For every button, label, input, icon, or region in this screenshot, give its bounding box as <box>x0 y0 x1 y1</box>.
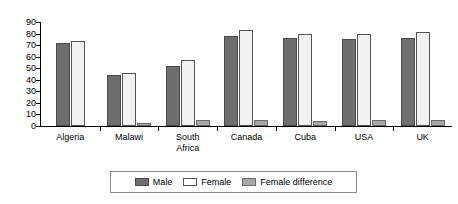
y-tick-mark <box>36 126 40 127</box>
bar-female <box>357 34 371 126</box>
y-tick-label: 60 <box>26 52 36 61</box>
female-swatch <box>183 178 197 186</box>
bar-group <box>335 22 394 126</box>
bar-male <box>342 39 356 126</box>
bar-male <box>107 75 121 126</box>
bar-group <box>100 22 159 126</box>
bar-female-difference <box>431 120 445 126</box>
bar-female-difference <box>137 123 151 126</box>
bar-female <box>416 32 430 126</box>
bar-group <box>41 22 100 126</box>
chart-legend: MaleFemaleFemale difference <box>110 171 357 193</box>
y-tick-mark <box>36 68 40 69</box>
legend-item[interactable]: Female difference <box>242 177 332 187</box>
y-tick-mark <box>36 91 40 92</box>
y-tick-mark <box>36 34 40 35</box>
x-category-label: Cuba <box>276 132 335 143</box>
x-tick-mark <box>100 127 101 131</box>
y-tick-mark <box>36 22 40 23</box>
x-tick-mark <box>217 127 218 131</box>
y-tick-label: 40 <box>26 75 36 84</box>
x-axis-line <box>40 126 452 127</box>
x-category-label: South Africa <box>158 132 217 154</box>
bar-chart: 0102030405060708090 AlgeriaMalawiSouth A… <box>0 0 458 204</box>
bar-female <box>71 41 85 127</box>
y-axis-tick-labels: 0102030405060708090 <box>14 22 36 126</box>
y-tick-label: 90 <box>26 18 36 27</box>
y-tick-mark <box>36 114 40 115</box>
x-tick-mark <box>393 127 394 131</box>
bar-group <box>276 22 335 126</box>
male-swatch <box>135 178 149 186</box>
x-axis-category-labels: AlgeriaMalawiSouth AfricaCanadaCubaUSAUK <box>41 132 452 162</box>
legend-label: Female difference <box>260 177 332 187</box>
x-tick-mark <box>335 127 336 131</box>
bar-female-difference <box>196 120 210 126</box>
bar-female <box>239 30 253 126</box>
bar-male <box>401 38 415 126</box>
y-tick-label: 30 <box>26 87 36 96</box>
y-tick-label: 20 <box>26 98 36 107</box>
bar-male <box>224 36 238 126</box>
x-category-label: UK <box>393 132 452 143</box>
legend-item[interactable]: Female <box>183 177 231 187</box>
legend-label: Female <box>201 177 231 187</box>
legend-label: Male <box>153 177 173 187</box>
bar-male <box>56 43 70 126</box>
bar-group <box>158 22 217 126</box>
y-tick-label: 10 <box>26 110 36 119</box>
legend-item[interactable]: Male <box>135 177 173 187</box>
bar-male <box>283 38 297 126</box>
x-category-label: USA <box>335 132 394 143</box>
bar-female-difference <box>372 120 386 126</box>
y-tick-mark <box>36 45 40 46</box>
y-tick-label: 80 <box>26 29 36 38</box>
y-tick-label: 70 <box>26 41 36 50</box>
female-difference-swatch <box>242 178 256 186</box>
bar-groups <box>41 22 452 126</box>
y-tick-label: 50 <box>26 64 36 73</box>
x-category-label: Algeria <box>41 132 100 143</box>
y-tick-mark <box>36 103 40 104</box>
plot-area: 0102030405060708090 AlgeriaMalawiSouth A… <box>0 8 458 158</box>
x-category-label: Malawi <box>100 132 159 143</box>
bar-group <box>217 22 276 126</box>
y-tick-mark <box>36 57 40 58</box>
bar-female <box>122 73 136 126</box>
bar-female <box>298 34 312 126</box>
bar-female <box>181 60 195 126</box>
y-tick-mark <box>36 80 40 81</box>
bar-female-difference <box>313 121 327 126</box>
x-tick-mark <box>158 127 159 131</box>
bar-female-difference <box>254 120 268 126</box>
bar-group <box>393 22 452 126</box>
x-tick-mark <box>276 127 277 131</box>
bar-male <box>166 66 180 126</box>
x-category-label: Canada <box>217 132 276 143</box>
